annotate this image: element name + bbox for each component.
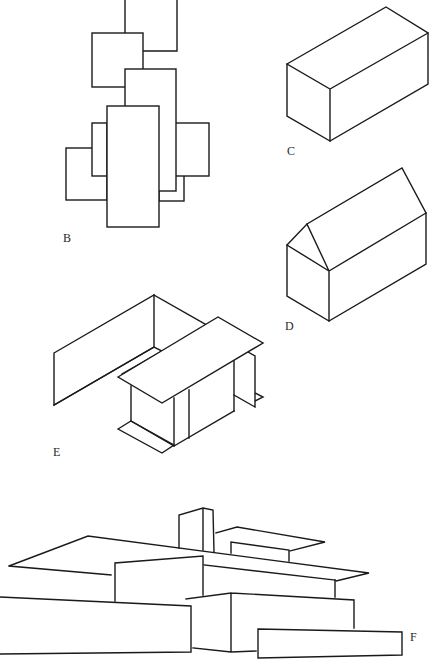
panel-f-front-bar	[258, 629, 402, 658]
figure-canvas: B C D E	[0, 0, 437, 665]
panel-e-roof-slab	[118, 317, 263, 403]
panel-e-floor-slab	[118, 421, 174, 453]
panel-f-main-roof	[9, 536, 369, 581]
panel-f-roof-underside	[204, 565, 335, 580]
panel-e-drawing: E	[53, 295, 263, 459]
panel-c-label: C	[287, 144, 295, 158]
panel-f-label: F	[410, 630, 417, 644]
panel-b-rect-left	[92, 123, 107, 176]
panel-e-label: E	[53, 445, 60, 459]
panel-c-drawing: C	[287, 7, 428, 158]
panel-f-chimney	[179, 508, 214, 552]
panel-d-drawing: D	[285, 168, 426, 333]
panel-f-lower-left-mass	[0, 597, 191, 654]
panel-e-wall-return	[154, 295, 205, 324]
panel-d-house-outline	[287, 168, 426, 321]
panel-d-label: D	[285, 319, 294, 333]
panel-e-wall-base	[131, 411, 234, 446]
panel-f-drawing: F	[0, 508, 417, 658]
panel-b-rect-main	[107, 106, 159, 227]
panel-b-label: B	[63, 231, 71, 245]
panel-b-drawing: B	[63, 0, 209, 245]
panel-e-end-fin	[234, 352, 263, 407]
